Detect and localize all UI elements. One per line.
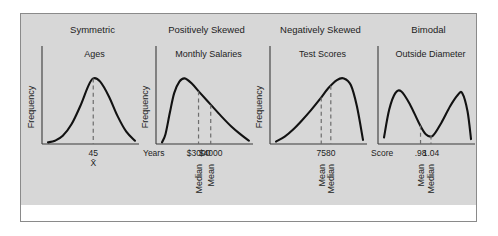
- x-axis-label: Score: [371, 148, 393, 158]
- y-axis-label: Frequency: [254, 85, 264, 128]
- panel-4: BimodalOutside Diameter.98Mean1.04Median…: [378, 24, 478, 194]
- panel-3: Negatively SkewedTest ScoresFrequency75M…: [254, 24, 393, 194]
- stat-label: X̄: [90, 158, 96, 168]
- panel-title: Positively Skewed: [168, 24, 245, 35]
- stat-label: Mean: [416, 164, 426, 187]
- axis-tick-label: 75: [317, 148, 327, 158]
- panel-title: Negatively Skewed: [280, 24, 361, 35]
- panel-2: Positively SkewedMonthly SalariesFrequen…: [140, 24, 253, 194]
- y-axis-label: Frequency: [26, 85, 36, 128]
- panel-title: Bimodal: [411, 24, 445, 35]
- distribution-shapes-figure: SymmetricAgesFrequency45X̄YearsPositivel…: [20, 13, 477, 222]
- stat-label: Median: [426, 164, 436, 194]
- distribution-curve: [48, 78, 135, 142]
- stat-label: Mean: [317, 164, 327, 187]
- distribution-curve: [276, 78, 363, 141]
- panel-title: Symmetric: [70, 24, 115, 35]
- stat-label: Mean: [206, 164, 216, 187]
- distribution-curve: [162, 78, 249, 142]
- y-axis-label: Frequency: [140, 85, 150, 128]
- distribution-plot-svg: SymmetricAgesFrequency45X̄YearsPositivel…: [21, 14, 478, 223]
- figure-canvas: SymmetricAgesFrequency45X̄YearsPositivel…: [21, 14, 478, 223]
- distribution-curve: [384, 90, 471, 139]
- axis-tick-label: 80: [326, 148, 336, 158]
- stat-label: Median: [326, 164, 336, 194]
- axis-tick-label: 1.04: [423, 148, 440, 158]
- panel-subtitle: Outside Diameter: [395, 49, 465, 59]
- panel-subtitle: Test Scores: [299, 49, 347, 59]
- x-axis-label: Years: [143, 148, 164, 158]
- axis-tick-label: 45: [89, 148, 99, 158]
- axis-tick-label: $4000: [199, 148, 223, 158]
- panel-subtitle: Ages: [84, 49, 105, 59]
- panel-subtitle: Monthly Salaries: [175, 49, 242, 59]
- stat-label: Median: [194, 164, 204, 194]
